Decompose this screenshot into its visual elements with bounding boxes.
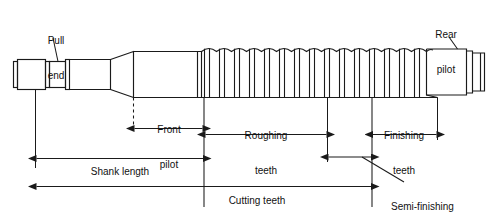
semi-finishing-line1: Semi-finishing xyxy=(391,201,493,213)
pull-end-line2: end xyxy=(39,70,73,82)
rear-pilot-line1: Rear xyxy=(424,29,468,41)
shank-length-line1: Shank length xyxy=(75,166,165,178)
dimension-label-shank-length: Shank length xyxy=(75,143,165,201)
callout-label-rear-pilot: Rear pilot xyxy=(424,6,468,98)
dimension-label-semi-finishing-teeth: Semi-finishing teeth xyxy=(391,178,493,218)
front-pilot-line1: Front xyxy=(145,124,193,136)
cutting-teeth-line1: Cutting teeth xyxy=(215,195,299,207)
tooth-flanks xyxy=(205,49,420,98)
front-pilot-cylinder xyxy=(134,52,202,98)
dimension-label-cutting-teeth: Cutting teeth xyxy=(215,172,299,218)
cutting-teeth-section xyxy=(202,49,438,98)
finishing-teeth-line1: Finishing xyxy=(373,130,435,142)
shank-to-pilot-taper xyxy=(111,52,134,98)
rear-pilot-line2: pilot xyxy=(424,64,468,76)
finishing-teeth-line2: teeth xyxy=(373,165,435,177)
roughing-teeth-line1: Roughing xyxy=(224,130,308,142)
broach-body-outline xyxy=(14,49,485,98)
pull-end-line1: Pull xyxy=(39,35,73,47)
callout-label-pull-end: Pull end xyxy=(39,12,73,104)
broach-diagram: Pull end Rear pilot Front pilot Roughing… xyxy=(0,0,498,218)
